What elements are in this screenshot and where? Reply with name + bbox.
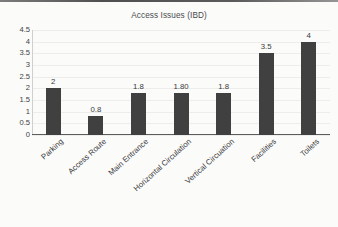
x-axis-category-label: Main Entrance — [107, 137, 150, 177]
x-axis-category-label: Parking — [40, 137, 66, 161]
y-axis-tick-label: 3 — [0, 61, 30, 69]
gridline — [32, 42, 330, 43]
gridline — [32, 53, 330, 54]
chart-screenshot: Access Issues (IBD) 00.511.522.533.544.5… — [0, 0, 338, 227]
gridline — [32, 135, 330, 136]
y-axis-tick-label: 1 — [0, 108, 30, 116]
y-axis-tick-label: 3.5 — [0, 49, 30, 57]
y-axis-tick-labels: 00.511.522.533.544.5 — [0, 30, 30, 135]
bar[interactable] — [259, 53, 274, 135]
y-axis-tick-label: 4.5 — [0, 26, 30, 34]
gridline — [32, 65, 330, 66]
x-axis-category-label: Access Route — [66, 137, 108, 176]
y-axis-tick-label: 4 — [0, 38, 30, 46]
chart-title: Access Issues (IBD) — [0, 11, 338, 20]
gridline — [32, 77, 330, 78]
bar[interactable] — [131, 93, 146, 135]
bar-value-label: 1.8 — [207, 82, 241, 91]
page-edge-band — [0, 0, 338, 2]
bar[interactable] — [46, 88, 61, 135]
bar-value-label: 4 — [292, 31, 326, 40]
bar[interactable] — [174, 93, 189, 135]
bar[interactable] — [88, 116, 103, 135]
bar[interactable] — [216, 93, 231, 135]
y-axis-tick-label: 2 — [0, 84, 30, 92]
bar-value-label: 3.5 — [249, 42, 283, 51]
y-axis-tick-label: 0.5 — [0, 119, 30, 127]
y-axis-tick-label: 1.5 — [0, 96, 30, 104]
x-axis-category-label: Toilets — [298, 137, 320, 158]
bar-value-label: 1.8 — [121, 82, 155, 91]
y-axis-tick-label: 2.5 — [0, 73, 30, 81]
gridline — [32, 30, 330, 31]
y-axis-tick-label: 0 — [0, 131, 30, 139]
bar-value-label: 2 — [36, 77, 70, 86]
x-axis-category-label: Facilities — [250, 137, 279, 164]
y-axis-line — [32, 30, 33, 135]
bar-value-label: 0.8 — [79, 105, 113, 114]
bar[interactable] — [301, 42, 316, 135]
bar-value-label: 1.80 — [164, 82, 198, 91]
